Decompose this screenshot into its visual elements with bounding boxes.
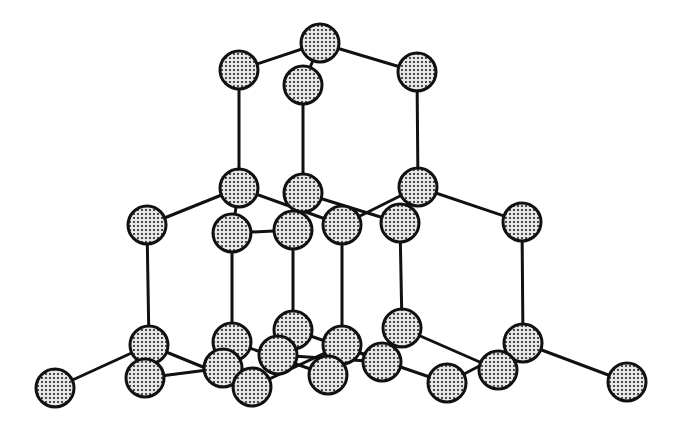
lattice-svg [0, 0, 681, 434]
atom-E3 [233, 368, 271, 406]
atom-C1 [213, 214, 251, 252]
atom-E4 [259, 336, 297, 374]
atom-E5 [309, 356, 347, 394]
atom-A0 [301, 24, 339, 62]
atom-E6 [363, 343, 401, 381]
atom-D4 [383, 309, 421, 347]
atom-E9 [608, 363, 646, 401]
atom-A3 [398, 53, 436, 91]
atom-E1 [126, 359, 164, 397]
atom-C4 [381, 204, 419, 242]
atom-C3 [323, 206, 361, 244]
atom-A1 [220, 51, 258, 89]
atom-E7 [428, 364, 466, 402]
atom-C5 [503, 203, 541, 241]
atom-E0 [36, 369, 74, 407]
atoms-layer [36, 24, 646, 407]
atom-A2 [284, 66, 322, 104]
atom-B1 [220, 169, 258, 207]
atom-C2 [274, 211, 312, 249]
atom-B2 [284, 174, 322, 212]
atom-C0 [128, 206, 166, 244]
lattice-diagram [0, 0, 681, 434]
atom-E8 [479, 351, 517, 389]
atom-B3 [399, 168, 437, 206]
